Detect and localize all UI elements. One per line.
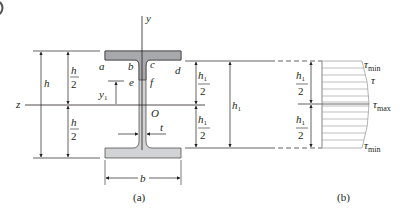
svg-text:2: 2 [200,129,206,141]
svg-text:2: 2 [298,129,304,141]
svg-text:2: 2 [71,78,77,90]
wide-flange-section [105,51,181,158]
svg-text:2: 2 [200,85,206,97]
parabolic-outline [322,61,369,148]
b-label: b [140,172,146,184]
panel-a: y z a b c d e f O y1 t b h [15,12,270,204]
svg-text:h: h [71,116,77,128]
point-e-label: e [129,76,134,88]
panel-b: h1 2 h1 2 [270,58,391,204]
svg-text:h1: h1 [296,69,306,83]
svg-text:2: 2 [71,130,77,142]
h1-half-top-label-a: h1 2 [198,69,210,97]
h-half-top-label: h 2 [70,64,79,90]
point-f-label: f [150,76,155,88]
svg-text:h1: h1 [296,113,306,127]
point-c-label: c [150,58,155,70]
origin-label: O [151,107,159,119]
h1-half-bottom-label-b: h1 2 [296,113,308,141]
h-label: h [44,77,50,89]
tau-max-label: τmax [373,98,391,113]
top-flange-shaded [105,51,181,80]
svg-text:2: 2 [298,85,304,97]
caption-b: (b) [337,191,350,204]
point-a-label: a [99,60,105,72]
point-d-label: d [175,64,181,76]
page-edge-artifact [0,2,3,14]
z-axis-label: z [15,98,21,110]
beam-shear-figure: y z a b c d e f O y1 t b h [0,0,413,217]
svg-text:h1: h1 [198,69,208,83]
shear-stress-distribution [322,61,369,148]
svg-text:h1: h1 [198,113,208,127]
caption-a: (a) [133,191,146,204]
tau-min-bottom-label: τmin [364,139,380,154]
h1-label: h1 [232,99,242,113]
tau-label: τ [371,74,376,86]
svg-text:h: h [71,64,77,76]
y1-label: y1 [98,88,108,102]
h1-half-bottom-label-a: h1 2 [198,113,210,141]
t-label: t [160,121,164,133]
h-half-bottom-label: h 2 [70,116,79,142]
y-axis-label: y [145,12,151,24]
h1-half-top-label-b: h1 2 [296,69,308,97]
tau-min-top-label: τmin [364,58,380,73]
point-b-label: b [128,60,134,72]
